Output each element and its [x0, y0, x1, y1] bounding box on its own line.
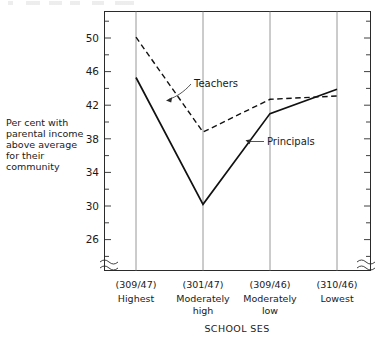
- y-axis-title-line-2: parental income: [6, 128, 84, 139]
- x-cat-name-2-line1: Moderately: [243, 293, 297, 304]
- y-tick-label-38: 38: [86, 133, 99, 145]
- teachers-leader-line: [169, 84, 192, 100]
- line-chart-svg: 50 46 42 38 34 30 26 Per cent with paren…: [0, 0, 389, 344]
- y-tick-label-50: 50: [86, 32, 99, 44]
- x-axis-title: SCHOOL SES: [204, 323, 269, 334]
- x-cat-count-1: (301/47): [183, 279, 224, 290]
- y-axis-tick-labels: 50 46 42 38 34 30 26: [86, 32, 100, 246]
- x-cat-name-2-line2: low: [262, 305, 278, 316]
- x-axis-break-right-2: [357, 266, 375, 270]
- y-axis-break-left: [100, 260, 118, 264]
- x-cat-count-0: (309/47): [116, 279, 157, 290]
- x-cat-name-0-line1: Highest: [118, 293, 155, 304]
- y-axis-break-left-2: [100, 266, 118, 270]
- annotation-teachers: Teachers: [166, 78, 238, 103]
- teachers-arrowhead-icon: [166, 97, 172, 102]
- principals-label: Principals: [267, 136, 315, 147]
- x-axis-category-labels: (309/47) Highest (301/47) Moderately hig…: [116, 279, 358, 316]
- y-axis-title-line-3: above average: [6, 139, 77, 150]
- y-axis-title-line-1: Per cent with: [6, 117, 68, 128]
- y-axis-ticks-right: [364, 21, 371, 256]
- y-axis-ticks-left: [105, 21, 112, 256]
- axis-break-marks: [100, 260, 375, 270]
- teachers-label: Teachers: [193, 78, 238, 89]
- chart-figure: 50 46 42 38 34 30 26 Per cent with paren…: [0, 0, 389, 344]
- y-axis-title-line-5: community: [6, 161, 60, 172]
- x-axis-break-right: [357, 260, 375, 264]
- y-tick-label-46: 46: [86, 65, 100, 77]
- x-cat-name-3-line1: Lowest: [320, 293, 354, 304]
- x-cat-count-3: (310/46): [317, 279, 358, 290]
- x-cat-name-1-line2: high: [193, 305, 214, 316]
- y-axis-title-line-4: for their: [6, 150, 44, 161]
- page-scan-artifact: [0, 0, 389, 7]
- plot-frame: [105, 12, 371, 271]
- y-tick-label-30: 30: [86, 200, 99, 212]
- y-tick-label-42: 42: [86, 99, 99, 111]
- y-tick-label-26: 26: [86, 233, 100, 245]
- y-tick-label-34: 34: [86, 166, 100, 178]
- y-axis-title: Per cent with parental income above aver…: [6, 117, 84, 172]
- annotation-principals: Principals: [246, 136, 315, 147]
- x-cat-name-1-line1: Moderately: [176, 293, 230, 304]
- x-cat-count-2: (309/46): [250, 279, 291, 290]
